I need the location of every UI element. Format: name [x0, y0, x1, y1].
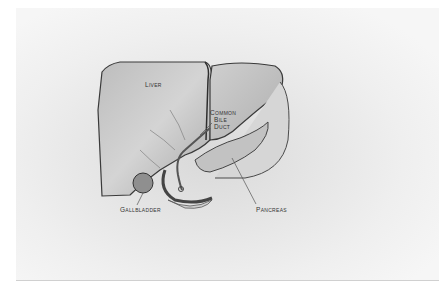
gallbladder-shape — [133, 173, 153, 193]
label-gallbladder: Gallbladder — [120, 207, 161, 213]
label-liver: Liver — [145, 82, 162, 88]
label-pancreas: Pancreas — [256, 207, 287, 213]
liver-illustration — [0, 0, 443, 295]
label-common-bile-duct-3: Duct — [214, 124, 230, 130]
